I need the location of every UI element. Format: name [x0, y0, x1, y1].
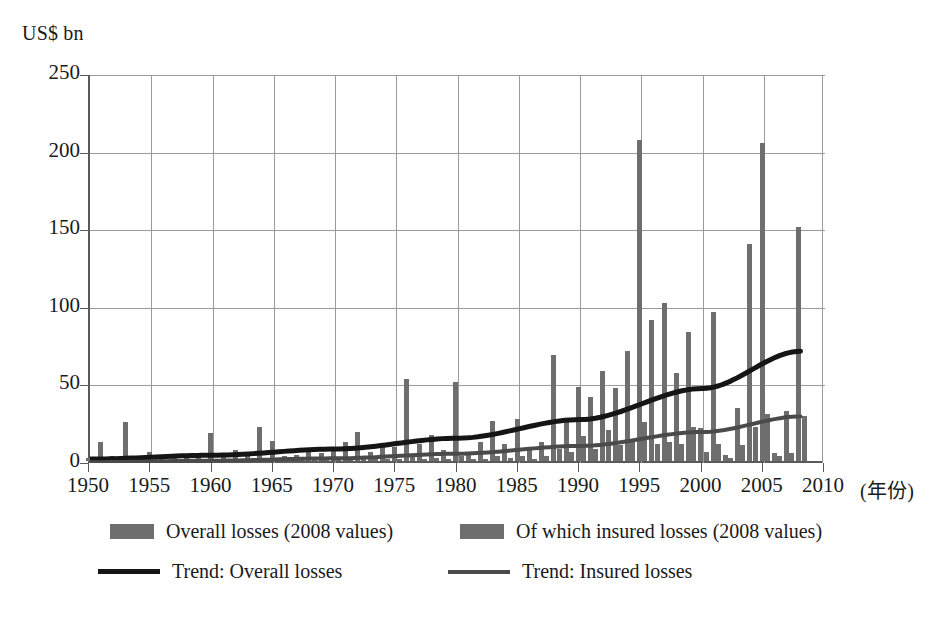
x-axis-tick-label: 1955	[114, 473, 184, 498]
y-axis-tick-label: 0	[18, 448, 80, 473]
x-axis-tick-mark	[639, 463, 640, 472]
legend-item-trend-overall[interactable]: Trend: Overall losses	[98, 560, 342, 583]
trend-overall-losses-line	[90, 351, 801, 459]
legend-line-trend-overall	[98, 569, 160, 574]
legend-label-overall-losses: Overall losses (2008 values)	[166, 520, 393, 543]
y-axis-tick-label: 250	[18, 60, 80, 85]
plot-area	[88, 75, 823, 463]
y-axis-tick-label: 150	[18, 215, 80, 240]
x-axis-tick-mark	[333, 463, 334, 472]
x-axis-tick-label: 2005	[727, 473, 797, 498]
x-axis-tick-mark	[517, 463, 518, 472]
x-axis-tick-mark	[272, 463, 273, 472]
x-axis-tick-label: 1990	[543, 473, 613, 498]
chart-container: US$ bn (年份) 050100150200250 195019551960…	[0, 0, 952, 619]
x-axis-tick-label: 1960	[176, 473, 246, 498]
legend-item-trend-insured[interactable]: Trend: Insured losses	[448, 560, 692, 583]
x-axis-tick-mark	[823, 463, 824, 472]
x-axis-tick-mark	[88, 463, 89, 472]
y-axis-unit-label: US$ bn	[22, 22, 84, 45]
y-axis-tick-label: 50	[18, 370, 80, 395]
legend-item-insured-losses[interactable]: Of which insured losses (2008 values)	[460, 520, 822, 543]
legend-line-trend-insured	[448, 570, 510, 574]
legend-row-2: Trend: Overall losses Trend: Insured los…	[0, 554, 952, 588]
x-axis-tick-mark	[211, 463, 212, 472]
legend-label-trend-insured: Trend: Insured losses	[522, 560, 692, 583]
x-axis-tick-mark	[456, 463, 457, 472]
y-axis-tick-label: 200	[18, 138, 80, 163]
x-axis-tick-mark	[394, 463, 395, 472]
chart-legend: Overall losses (2008 values) Of which in…	[0, 520, 952, 588]
x-axis-tick-label: 1995	[604, 473, 674, 498]
legend-label-trend-overall: Trend: Overall losses	[172, 560, 342, 583]
x-axis-tick-label: 2000	[666, 473, 736, 498]
legend-row-1: Overall losses (2008 values) Of which in…	[0, 520, 952, 554]
x-axis-tick-mark	[578, 463, 579, 472]
x-axis-tick-label: 2010	[788, 473, 858, 498]
y-axis-tick-label: 100	[18, 293, 80, 318]
x-axis-unit-label: (年份)	[860, 475, 914, 504]
legend-label-insured-losses: Of which insured losses (2008 values)	[516, 520, 822, 543]
legend-item-overall-losses[interactable]: Overall losses (2008 values)	[110, 520, 393, 543]
x-axis-tick-label: 1975	[359, 473, 429, 498]
legend-swatch-insured-losses	[460, 524, 504, 539]
x-axis-tick-mark	[701, 463, 702, 472]
x-axis-tick-mark	[149, 463, 150, 472]
x-axis-tick-mark	[762, 463, 763, 472]
x-axis-tick-label: 1970	[298, 473, 368, 498]
x-axis-tick-label: 1980	[421, 473, 491, 498]
trend-lines	[90, 75, 825, 463]
x-axis-tick-label: 1965	[237, 473, 307, 498]
x-axis-tick-label: 1985	[482, 473, 552, 498]
legend-swatch-overall-losses	[110, 524, 154, 539]
x-axis-tick-label: 1950	[53, 473, 123, 498]
